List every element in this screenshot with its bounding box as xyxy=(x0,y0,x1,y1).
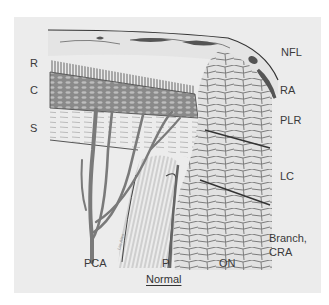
label-lc: LC xyxy=(280,170,294,182)
optic-nerve-tissue xyxy=(173,50,272,270)
figure-caption: Normal xyxy=(146,273,181,285)
label-branch: Branch, xyxy=(269,232,307,244)
label-pca: PCA xyxy=(84,257,107,269)
label-choroid: C xyxy=(30,84,38,96)
label-nfl: NFL xyxy=(281,46,302,58)
label-p: P xyxy=(162,257,169,269)
label-on: ON xyxy=(219,257,236,269)
label-ra: RA xyxy=(280,84,295,96)
label-cra: CRA xyxy=(269,246,292,258)
label-sclera: S xyxy=(30,122,37,134)
label-plr: PLR xyxy=(280,114,301,126)
label-retina: R xyxy=(30,57,38,69)
